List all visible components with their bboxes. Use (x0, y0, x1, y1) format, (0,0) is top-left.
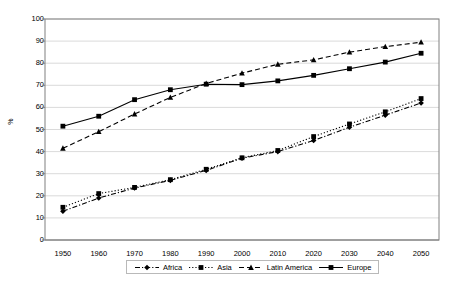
legend-label: Asia (217, 263, 232, 272)
series-line-latin-america (63, 42, 421, 148)
data-point-europe (311, 73, 316, 78)
x-tick-label: 1980 (150, 249, 190, 258)
data-point-asia (168, 177, 173, 182)
legend-label: Latin America (267, 263, 312, 272)
legend-marker-square-icon (188, 263, 214, 272)
data-point-asia (132, 185, 137, 190)
series-line-asia (63, 99, 421, 208)
data-point-asia (383, 109, 388, 114)
data-point-asia (311, 134, 316, 139)
data-point-latin-america (382, 44, 388, 49)
legend-label: Europe (347, 263, 371, 272)
data-point-europe (96, 114, 101, 119)
legend-item-europe[interactable]: Europe (318, 263, 371, 272)
data-point-europe (204, 82, 209, 87)
x-tick-label: 2000 (222, 249, 262, 258)
data-point-africa (418, 100, 424, 106)
data-point-asia (347, 122, 352, 127)
data-point-asia (419, 96, 424, 101)
data-point-asia (204, 167, 209, 172)
legend-item-latin-america[interactable]: Latin America (238, 263, 312, 272)
data-point-latin-america (418, 39, 424, 44)
x-tick-label: 2030 (329, 249, 369, 258)
data-point-europe (240, 82, 245, 87)
data-point-europe (347, 66, 352, 71)
x-tick-label: 2040 (365, 249, 405, 258)
plot-area (0, 0, 449, 289)
data-point-asia (275, 148, 280, 153)
data-point-europe (275, 78, 280, 83)
x-tick-label: 2010 (258, 249, 298, 258)
legend-item-asia[interactable]: Asia (188, 263, 232, 272)
data-point-europe (132, 97, 137, 102)
series-line-europe (63, 53, 421, 126)
urbanization-line-chart: % 0102030405060708090100 195019601970198… (0, 0, 449, 289)
x-tick-label: 1970 (115, 249, 155, 258)
legend-marker-triangle-icon (238, 263, 264, 272)
data-point-europe (61, 124, 66, 129)
legend-label: Africa (163, 263, 182, 272)
x-tick-label: 2020 (294, 249, 334, 258)
x-tick-label: 1990 (186, 249, 226, 258)
data-point-europe (383, 60, 388, 65)
data-point-asia (61, 205, 66, 210)
data-point-europe (168, 87, 173, 92)
data-point-asia (96, 191, 101, 196)
x-tick-label: 1950 (43, 249, 83, 258)
legend-marker-square-icon (318, 263, 344, 272)
data-point-asia (240, 155, 245, 160)
data-point-europe (419, 51, 424, 56)
x-tick-label: 1960 (79, 249, 119, 258)
chart-legend: AfricaAsiaLatin AmericaEurope (126, 260, 379, 274)
legend-marker-diamond-icon (134, 263, 160, 272)
data-point-latin-america (60, 145, 66, 150)
x-tick-label: 2050 (401, 249, 441, 258)
legend-item-africa[interactable]: Africa (134, 263, 182, 272)
